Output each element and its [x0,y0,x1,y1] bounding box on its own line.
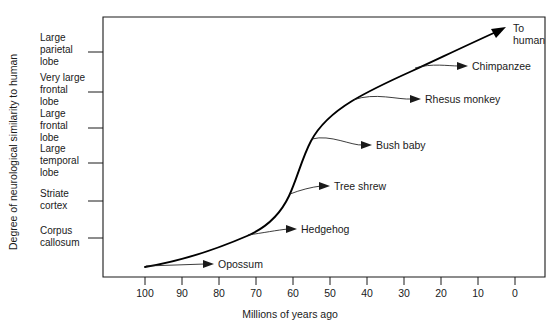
y-label-line: lobe [40,96,59,107]
y-label-line: frontal [40,120,68,131]
x-tick-label-70: 70 [250,287,262,299]
x-tick-label-30: 30 [398,287,410,299]
y-label-line: parietal [40,44,73,55]
annotation-label-tree-shrew: Tree shrew [334,180,387,192]
y-axis-ticks [88,52,103,238]
annotation-label-hedgehog: Hedgehog [301,223,350,235]
annotation-leader-hedgehog [248,225,297,235]
plot-frame-border [103,17,545,277]
to-human-line: To [513,22,524,34]
y-label-line: lobe [40,56,59,67]
annotation-label-chimpanzee: Chimpanzee [472,60,531,72]
y-tick-label-large-parietal-lobe: Large parietal lobe [40,32,76,67]
y-axis-tick-labels: Large parietal lobe Very large frontal l… [40,32,88,248]
x-tick-label-100: 100 [136,287,154,299]
y-label-line: Large [40,143,66,154]
annotation-leader-rhesus-monkey [353,95,421,103]
similarity-curve-arrowhead [491,27,506,38]
y-label-line: callosum [40,237,79,248]
y-label-line: Very large [40,72,85,83]
x-tick-label-50: 50 [324,287,336,299]
x-axis-title: Millions of years ago [242,308,338,320]
x-tick-label-10: 10 [472,287,484,299]
y-label-line: Corpus [40,225,72,236]
annotation-leader-tree-shrew [290,182,330,194]
y-label-line: cortex [40,200,67,211]
x-axis-tick-labels: 100 90 80 70 60 50 40 30 20 10 0 [136,287,518,299]
to-human-line: human [513,34,545,46]
x-tick-label-90: 90 [176,287,188,299]
y-label-line: Large [40,32,66,43]
annotation-label-rhesus-monkey: Rhesus monkey [425,93,501,105]
x-tick-label-40: 40 [361,287,373,299]
x-tick-label-60: 60 [287,287,299,299]
annotation-labels: Opossum Hedgehog Tree shrew Bush baby Rh… [218,22,545,270]
y-label-line: Large [40,108,66,119]
y-tick-label-very-large-frontal-lobe: Very large frontal lobe [40,72,88,107]
y-label-line: frontal [40,84,68,95]
x-tick-label-80: 80 [213,287,225,299]
x-axis-ticks [145,277,515,285]
y-label-line: Striate [40,188,69,199]
y-label-line: lobe [40,167,59,178]
x-tick-label-0: 0 [512,287,518,299]
annotation-label-opossum: Opossum [218,258,263,270]
y-tick-label-large-temporal-lobe: Large temporal lobe [40,143,82,178]
annotation-leader-bush-baby [312,138,372,149]
annotation-label-to-human: To human [513,22,545,46]
y-label-line: temporal [40,155,79,166]
y-tick-label-corpus-callosum: Corpus callosum [40,225,79,248]
x-tick-label-20: 20 [435,287,447,299]
y-tick-label-striate-cortex: Striate cortex [40,188,72,211]
y-label-line: lobe [40,132,59,143]
annotation-label-bush-baby: Bush baby [376,139,426,151]
annotation-leader-chimpanzee [415,62,468,70]
evolution-neurological-similarity-chart: Large parietal lobe Very large frontal l… [0,0,560,328]
y-tick-label-large-frontal-lobe: Large frontal lobe [40,108,71,143]
y-axis-title: Degree of neurological similarity to hum… [7,54,19,250]
